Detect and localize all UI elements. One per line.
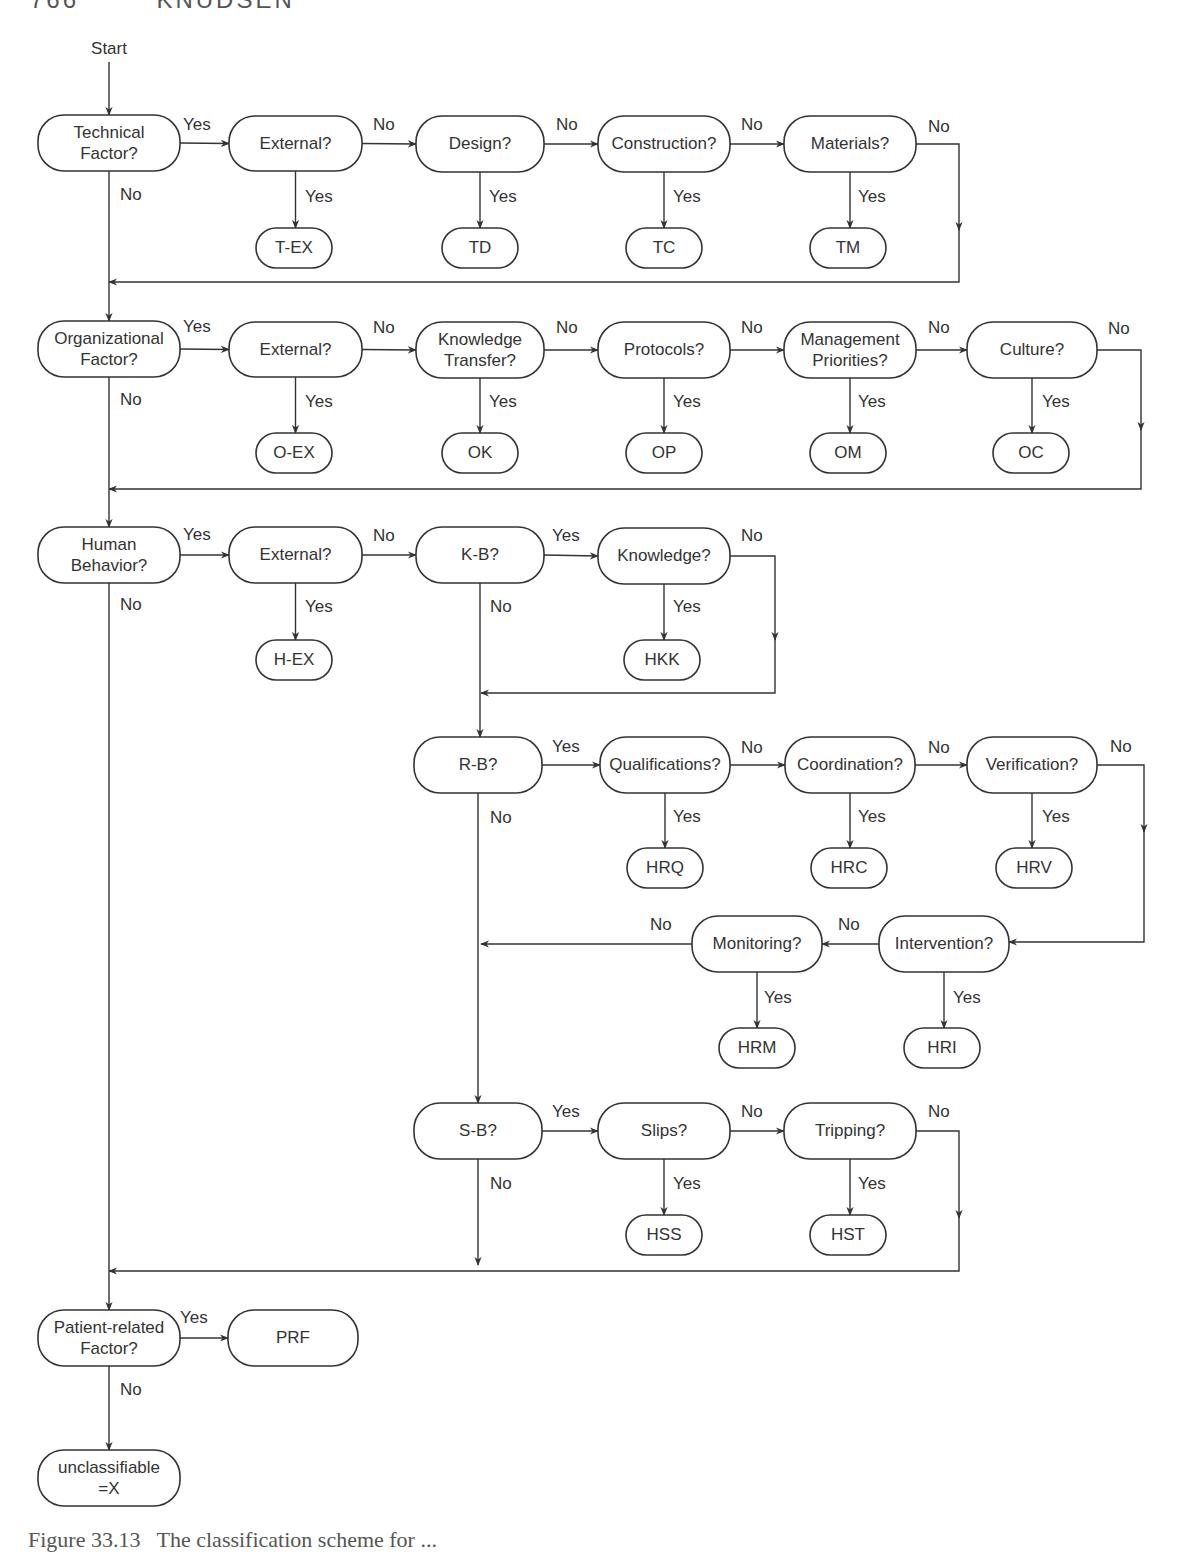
node-tripping: Tripping?: [784, 1103, 916, 1159]
node-label: =X: [98, 1479, 119, 1498]
edge: [1097, 350, 1141, 430]
edge-label-yes: Yes: [183, 525, 211, 544]
node-monitoring: Monitoring?: [692, 916, 822, 972]
node-hrc: HRC: [811, 848, 887, 888]
node-o-external: External?: [229, 322, 362, 377]
edge-label-no: No: [1110, 737, 1132, 756]
node-label: Slips?: [641, 1121, 687, 1140]
node-hri: HRI: [904, 1028, 980, 1068]
edge-label-no: No: [741, 1102, 763, 1121]
edge-label-yes: Yes: [858, 1174, 886, 1193]
node-t-design: Design?: [416, 116, 544, 172]
edge-label-no: No: [120, 1380, 142, 1399]
node-label: Organizational: [54, 329, 164, 348]
edge-label-no: No: [928, 738, 950, 757]
edge-label-yes: Yes: [1042, 392, 1070, 411]
node-patient: Patient-relatedFactor?: [38, 1310, 180, 1366]
node-label: TD: [469, 238, 492, 257]
edge-label-yes: Yes: [673, 392, 701, 411]
node-label: Construction?: [612, 134, 717, 153]
edge-label-yes: Yes: [305, 392, 333, 411]
node-h-external: External?: [229, 527, 362, 583]
node-organizational: OrganizationalFactor?: [38, 321, 180, 377]
edge-label-yes: Yes: [764, 988, 792, 1007]
edge-label-no: No: [741, 318, 763, 337]
node-label: Culture?: [1000, 340, 1064, 359]
edge: [730, 556, 775, 640]
node-tc: TC: [626, 228, 702, 268]
node-intervention: Intervention?: [879, 916, 1009, 972]
node-qualifications: Qualifications?: [600, 737, 730, 793]
node-label: Verification?: [986, 755, 1079, 774]
node-label: External?: [260, 134, 332, 153]
node-coordination: Coordination?: [785, 737, 915, 793]
node-o-protocols: Protocols?: [598, 322, 730, 378]
edge-label-yes: Yes: [673, 597, 701, 616]
edge: [1097, 765, 1144, 832]
node-label: Tripping?: [815, 1121, 885, 1140]
edge-label-yes: Yes: [489, 392, 517, 411]
node-label: Knowledge?: [617, 546, 711, 565]
node-label: OC: [1018, 443, 1044, 462]
node-label: Priorities?: [812, 351, 888, 370]
node-label: unclassifiable: [58, 1458, 160, 1477]
edge-label-no: No: [490, 808, 512, 827]
edge-label-yes: Yes: [305, 187, 333, 206]
node-td: TD: [442, 228, 518, 268]
node-slips: Slips?: [598, 1103, 730, 1159]
node-t-construction: Construction?: [598, 116, 730, 172]
node-t-materials: Materials?: [784, 116, 916, 172]
edge: [544, 555, 598, 556]
node-prf: PRF: [228, 1310, 358, 1366]
node-label: OK: [468, 443, 493, 462]
node-label: Design?: [449, 134, 511, 153]
edge-label-no: No: [741, 738, 763, 757]
edge: [916, 1131, 959, 1218]
node-h-ex: H-EX: [256, 640, 332, 680]
edge-label-no: No: [490, 597, 512, 616]
node-label: Protocols?: [624, 340, 704, 359]
edge-label-yes: Yes: [673, 807, 701, 826]
node-hrv: HRV: [996, 848, 1072, 888]
node-op: OP: [626, 433, 702, 473]
node-label: External?: [260, 545, 332, 564]
node-t-external: External?: [229, 116, 362, 171]
edge-label-no: No: [120, 595, 142, 614]
edge-label-yes: Yes: [552, 526, 580, 545]
node-label: HST: [831, 1225, 865, 1244]
node-label: Intervention?: [895, 934, 993, 953]
node-label: O-EX: [273, 443, 315, 462]
node-o-culture: Culture?: [967, 322, 1097, 378]
edge-label-yes: Yes: [183, 317, 211, 336]
figure-caption: Figure 33.13 The classification scheme f…: [28, 1527, 437, 1553]
node-ok: OK: [442, 433, 518, 473]
node-label: Patient-related: [54, 1318, 165, 1337]
edge-label-no: No: [741, 526, 763, 545]
node-verification: Verification?: [967, 737, 1097, 793]
start-label: Start: [91, 39, 127, 58]
node-label: Human: [82, 535, 137, 554]
node-label: HRM: [738, 1038, 777, 1057]
node-o-ex: O-EX: [256, 433, 332, 473]
edge-label-no: No: [120, 390, 142, 409]
node-label: Materials?: [811, 134, 889, 153]
edge-label-no: No: [928, 1102, 950, 1121]
node-label: OP: [652, 443, 677, 462]
edge-label-yes: Yes: [180, 1308, 208, 1327]
node-t-ex: T-EX: [256, 228, 332, 268]
edge-label-no: No: [928, 117, 950, 136]
node-label: S-B?: [459, 1121, 497, 1140]
node-label: Technical: [74, 123, 145, 142]
node-label: Factor?: [80, 144, 138, 163]
node-label: Factor?: [80, 350, 138, 369]
edge-label-no: No: [373, 318, 395, 337]
node-oc: OC: [993, 433, 1069, 473]
node-human: HumanBehavior?: [38, 527, 180, 583]
node-label: HSS: [647, 1225, 682, 1244]
edge-label-no: No: [373, 526, 395, 545]
node-label: Knowledge: [438, 330, 522, 349]
node-label: HRV: [1016, 858, 1052, 877]
node-label: External?: [260, 340, 332, 359]
edge-label-no: No: [373, 115, 395, 134]
